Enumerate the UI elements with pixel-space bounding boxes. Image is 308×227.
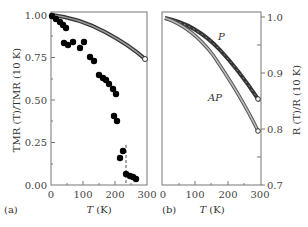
panel-b-ap-label: AP <box>207 92 222 103</box>
panel-a-xtick-100: 100 <box>73 189 92 200</box>
panel-b-p-label: P <box>217 31 225 42</box>
panel-b-ylabel: R (T)/R (10 K) <box>291 65 302 136</box>
panel-a-ytick-075: 0.75 <box>25 52 47 63</box>
panel-a-ytick-025: 0.25 <box>25 137 47 148</box>
panel-b-ytick-08: 0.8 <box>267 124 283 135</box>
panel-a-xtick-200: 200 <box>105 189 124 200</box>
panel-a: 1.00 0.75 0.50 0.25 0.00 0 100 200 300 T… <box>4 10 157 215</box>
panel-b-xtick-100: 100 <box>185 189 204 200</box>
panel-a-ytick-1: 1.00 <box>25 10 47 21</box>
panel-a-ytick-050: 0.50 <box>25 95 47 106</box>
panel-a-label: (a) <box>4 204 18 215</box>
panel-a-frame <box>51 12 147 185</box>
panel-a-ytick-000: 0.00 <box>25 180 47 191</box>
panel-b-ap-curve <box>165 18 258 131</box>
panel-b-xtick-0: 0 <box>160 189 166 200</box>
panel-a-xtick-0: 0 <box>48 189 54 200</box>
panel-a-ylabel: TMR (T)/TMR (10 K) <box>11 48 22 152</box>
panel-a-curve-endpoint <box>143 57 148 62</box>
figure: 1.00 0.75 0.50 0.25 0.00 0 100 200 300 T… <box>0 0 308 227</box>
panel-b-ticks <box>179 17 265 185</box>
panel-a-xlabel: T (K) <box>86 204 111 215</box>
panel-b-ytick-10: 1.0 <box>267 12 283 23</box>
panel-b-label: (b) <box>162 204 176 215</box>
panel-a-xtick-300: 300 <box>137 189 156 200</box>
panel-a-open-circle-curve <box>52 15 145 59</box>
panel-b-ytick-09: 0.9 <box>267 68 283 79</box>
panel-b-p-curve <box>165 18 258 99</box>
panel-b-xtick-200: 200 <box>218 189 237 200</box>
panel-b-xlabel: T (K) <box>199 204 224 215</box>
panel-b: 1.0 0.9 0.8 0.7 0 100 200 300 T (K) (b) … <box>160 12 302 215</box>
panel-b-xtick-300: 300 <box>250 189 269 200</box>
